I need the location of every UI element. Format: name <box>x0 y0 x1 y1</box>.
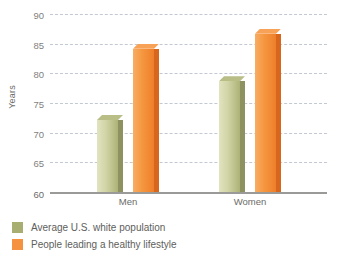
y-axis-tick-label: 85 <box>33 39 44 50</box>
axis-baseline: 60 <box>50 192 327 194</box>
y-axis-tick-label: 80 <box>33 69 44 80</box>
legend-swatch-icon <box>12 222 23 233</box>
bar-front-face <box>219 81 240 192</box>
y-axis-tick-label: 75 <box>33 99 44 110</box>
x-axis-label-men: Men <box>93 196 163 207</box>
bar-side-face <box>118 120 123 192</box>
bar-front-face <box>97 120 118 192</box>
gridline: 70 <box>50 133 327 134</box>
x-axis-label-women: Women <box>215 196 285 207</box>
y-axis-title: Years <box>7 67 17 127</box>
legend-item-2[interactable]: People leading a healthy lifestyle <box>12 236 177 253</box>
gridline: 75 <box>50 103 327 104</box>
bar-men-series-1 <box>97 115 123 192</box>
bar-side-face <box>154 49 159 192</box>
y-axis-tick-label: 60 <box>33 189 44 200</box>
bar-side-face <box>276 34 281 192</box>
gridline: 80 <box>50 73 327 74</box>
bar-front-face <box>255 34 276 192</box>
bar-men-series-2 <box>133 44 159 192</box>
y-axis-tick-label: 70 <box>33 128 44 139</box>
legend-item-1[interactable]: Average U.S. white population <box>12 219 177 236</box>
legend-swatch-icon <box>12 239 23 250</box>
gridline: 85 <box>50 44 327 45</box>
legend: Average U.S. white populationPeople lead… <box>12 219 177 253</box>
gridline: 90 <box>50 14 327 15</box>
bar-front-face <box>133 49 154 192</box>
legend-item-label: Average U.S. white population <box>31 222 165 233</box>
bar-chart: Years 60657075808590 MenWomen Average U.… <box>0 0 340 261</box>
plot-area: 60657075808590 <box>50 14 327 192</box>
y-axis-tick-label: 90 <box>33 10 44 21</box>
bar-women-series-2 <box>255 29 281 192</box>
y-axis-tick-label: 65 <box>33 158 44 169</box>
legend-item-label: People leading a healthy lifestyle <box>31 239 177 250</box>
bar-women-series-1 <box>219 76 245 192</box>
gridline: 65 <box>50 162 327 163</box>
bar-side-face <box>240 81 245 192</box>
